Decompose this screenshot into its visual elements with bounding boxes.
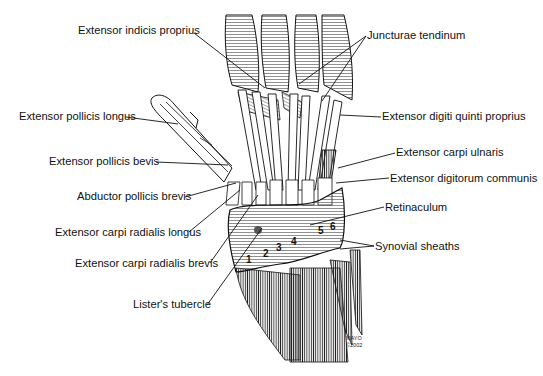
label-abductor-pollicis-brevis: Abductor pollicis brevis — [77, 190, 191, 203]
credit-line-2: ©2002 — [346, 342, 362, 349]
compartment-3: 3 — [276, 242, 282, 253]
label-synovial-sheaths: Synovial sheaths — [375, 240, 460, 253]
label-extensor-pollicis-longus: Extensor pollicis longus — [19, 110, 136, 123]
label-extensor-carpi-radialis-longus: Extensor carpi radialis longus — [55, 226, 201, 239]
label-retinaculum: Retinaculum — [385, 201, 447, 214]
compartment-1: 1 — [246, 254, 252, 265]
compartment-6: 6 — [330, 221, 336, 232]
credit: MAYO ©2002 — [346, 335, 362, 348]
compartment-4: 4 — [291, 236, 297, 247]
compartment-5: 5 — [318, 225, 324, 236]
hand-illustration: 1 2 3 4 5 6 — [0, 0, 543, 376]
label-extensor-carpi-radialis-brevis: Extensor carpi radialis brevis — [75, 257, 218, 270]
label-juncturae-tendinum: Juncturae tendinum — [367, 29, 465, 42]
finger-hoods — [225, 15, 352, 100]
label-extensor-digitorum-communis: Extensor digitorum communis — [390, 172, 537, 185]
credit-line-1: MAYO — [346, 335, 362, 342]
compartment-2: 2 — [263, 248, 269, 259]
thumb — [151, 95, 232, 182]
label-listers-tubercle: Lister's tubercle — [133, 298, 211, 311]
label-extensor-indicis-proprius: Extensor indicis proprius — [78, 24, 200, 37]
label-extensor-carpi-ulnaris: Extensor carpi ulnaris — [396, 146, 504, 159]
label-extensor-pollicis-bevis: Extensor pollicis bevis — [49, 155, 159, 168]
anatomy-figure: 1 2 3 4 5 6 Extensor indicis propri — [0, 0, 543, 376]
label-extensor-digiti-quinti-proprius: Extensor digiti quinti proprius — [382, 110, 526, 123]
